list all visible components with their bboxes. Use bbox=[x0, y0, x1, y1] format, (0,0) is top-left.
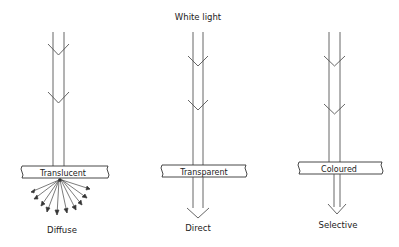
panel-label-transparent: Transparent bbox=[179, 168, 227, 177]
result-label-diffuse: Diffuse bbox=[47, 225, 77, 235]
title-white-light: White light bbox=[175, 12, 222, 22]
incident-beam-left bbox=[48, 32, 69, 168]
incident-beam-middle bbox=[188, 32, 208, 166]
panel-label-translucent: Translucent bbox=[39, 169, 86, 178]
translucent-column: Translucent Diffuse bbox=[21, 32, 109, 235]
light-transmission-diagram: White light Translucent Diffuse bbox=[0, 0, 399, 247]
chevron-arrow-icon bbox=[48, 44, 69, 55]
chevron-arrow-icon bbox=[188, 100, 208, 110]
panel-transparent: Transparent bbox=[161, 165, 247, 177]
chevron-arrow-icon bbox=[188, 56, 208, 66]
diffuse-rays bbox=[31, 178, 90, 215]
chevron-arrow-icon bbox=[324, 104, 345, 114]
incident-beam-right bbox=[324, 32, 345, 163]
panel-label-coloured: Coloured bbox=[321, 165, 357, 174]
selective-beam bbox=[328, 174, 346, 214]
chevron-arrow-icon bbox=[324, 56, 345, 66]
arrow-down-icon bbox=[328, 204, 346, 214]
panel-translucent: Translucent bbox=[21, 166, 109, 178]
arrow-down-icon bbox=[187, 208, 209, 218]
chevron-arrow-icon bbox=[48, 92, 69, 103]
transparent-column: Transparent Direct bbox=[161, 32, 247, 233]
coloured-column: Coloured Selective bbox=[298, 32, 383, 230]
direct-beam bbox=[187, 177, 209, 218]
result-label-selective: Selective bbox=[319, 220, 358, 230]
panel-coloured: Coloured bbox=[298, 162, 383, 174]
result-label-direct: Direct bbox=[185, 223, 211, 233]
